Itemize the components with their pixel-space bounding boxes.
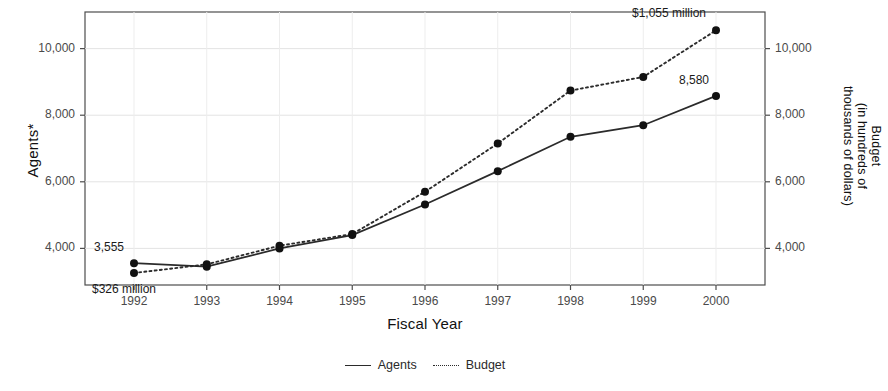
data-point-budget [421, 188, 429, 196]
y-tick-label-left: 8,000 [15, 107, 75, 121]
data-point-budget [712, 26, 720, 34]
y-axis-right-title-line1: Budget [869, 66, 883, 226]
data-point-agents [712, 92, 720, 100]
y-tick-label-right: 8,000 [775, 107, 835, 121]
x-tick-label: 1996 [395, 294, 455, 308]
dotted-line-icon [433, 365, 459, 366]
solid-line-icon [345, 365, 371, 366]
y-tick-label-left: 4,000 [15, 240, 75, 254]
data-point-budget [130, 269, 138, 277]
data-point-budget [494, 140, 502, 148]
x-tick-label: 2000 [686, 294, 746, 308]
annotation-start-budget: $326 million [92, 282, 156, 296]
data-point-agents [130, 259, 138, 267]
legend-item-budget: Budget [433, 358, 506, 372]
gridlines [85, 12, 765, 285]
x-tick-label: 1992 [104, 294, 164, 308]
annotation-start-agents: 3,555 [94, 240, 124, 254]
data-point-agents [421, 200, 429, 208]
data-point-agents [567, 133, 575, 141]
x-tick-marks [134, 285, 716, 290]
x-tick-label: 1993 [177, 294, 237, 308]
annotation-end-budget: $1,055 million [0, 6, 706, 20]
x-axis-title: Fiscal Year [0, 315, 850, 332]
legend-label-agents: Agents [378, 358, 417, 372]
y-tick-label-left: 6,000 [15, 174, 75, 188]
y-axis-right-title: Budget (in hundreds of thousands of doll… [841, 66, 883, 226]
x-tick-label: 1995 [322, 294, 382, 308]
x-tick-label: 1997 [468, 294, 528, 308]
y-axis-right-title-line2: (in hundreds of [855, 66, 869, 226]
y-tick-label-right: 4,000 [775, 240, 835, 254]
chart-legend: Agents Budget [0, 358, 850, 372]
y-axis-right-title-line3: thousands of dollars) [841, 66, 855, 226]
data-point-budget [348, 230, 356, 238]
legend-label-budget: Budget [466, 358, 506, 372]
y-tick-label-right: 10,000 [775, 41, 835, 55]
line-chart-plot [0, 0, 888, 391]
data-point-budget [567, 87, 575, 95]
data-point-agents [494, 167, 502, 175]
x-tick-label: 1998 [541, 294, 601, 308]
data-point-agents [639, 121, 647, 129]
chart-figure: Agents* Budget (in hundreds of thousands… [0, 0, 888, 391]
data-point-budget [276, 242, 284, 250]
legend-item-agents: Agents [345, 358, 417, 372]
annotation-end-agents: 8,580 [0, 73, 709, 87]
y-tick-label-left: 10,000 [15, 41, 75, 55]
data-point-budget [203, 260, 211, 268]
y-tick-label-right: 6,000 [775, 174, 835, 188]
x-tick-label: 1994 [250, 294, 310, 308]
x-tick-label: 1999 [613, 294, 673, 308]
